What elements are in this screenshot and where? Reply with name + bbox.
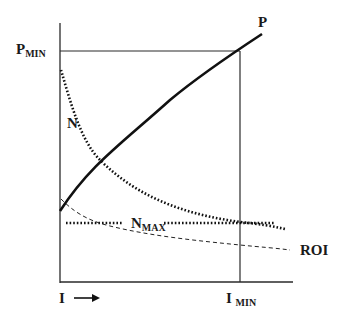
n-curve-label: N	[67, 116, 78, 131]
i-min-label: I MIN	[226, 291, 256, 308]
n-max-label-sub: MAX	[142, 222, 166, 233]
i-min-label-sub: MIN	[236, 297, 257, 308]
p-min-label-main: P	[16, 41, 25, 57]
n-max-label: NMAX	[131, 216, 166, 233]
diagram-canvas	[0, 0, 341, 318]
n-curve	[61, 70, 285, 229]
x-axis-label: I	[59, 291, 65, 306]
roi-curve-label: ROI	[300, 243, 328, 258]
i-min-label-main: I	[226, 290, 232, 306]
n-max-label-main: N	[131, 215, 142, 231]
x-axis-arrow-icon	[92, 294, 100, 302]
p-curve-label: P	[258, 15, 267, 30]
p-curve	[60, 34, 262, 211]
p-min-label: PMIN	[16, 42, 46, 59]
p-min-label-sub: MIN	[25, 48, 46, 59]
